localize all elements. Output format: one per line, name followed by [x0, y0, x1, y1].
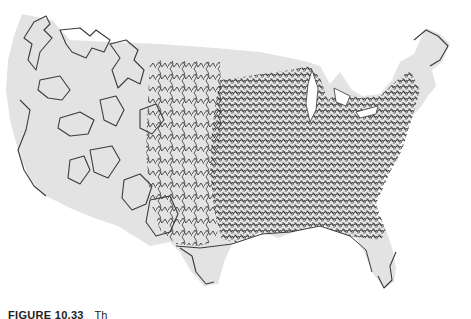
- figure-caption-text: Th: [95, 309, 108, 319]
- figure-caption: FIGURE 10.33 Th: [8, 309, 107, 319]
- us-map-tour-illustration: [0, 0, 471, 310]
- figure: FIGURE 10.33 Th: [0, 0, 471, 319]
- figure-label: FIGURE 10.33: [8, 309, 84, 319]
- mid-tour-region: [146, 60, 222, 246]
